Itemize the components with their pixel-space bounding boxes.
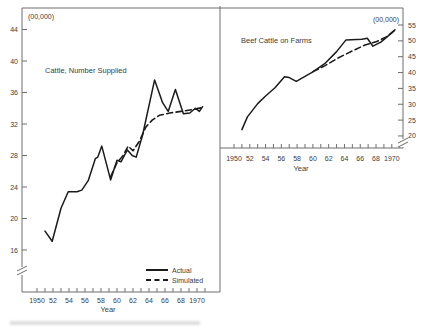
- right-x-tick-label: 64: [341, 155, 349, 162]
- chart-generated-layer: 1950525456586062646668197016202428323640…: [10, 6, 416, 304]
- left-y-tick-label: 20: [10, 215, 18, 222]
- left-x-tick-label: 54: [65, 297, 73, 304]
- left-unit-label: (00,000): [28, 13, 54, 21]
- right-x-tick-label: 62: [325, 155, 333, 162]
- left-x-tick-label: 64: [145, 297, 153, 304]
- figure-canvas: 1950525456586062646668197016202428323640…: [0, 0, 427, 328]
- left-y-tick-label: 16: [10, 247, 18, 254]
- left-x-tick-label: 58: [97, 297, 105, 304]
- figure: 1950525456586062646668197016202428323640…: [0, 0, 427, 328]
- left-y-tick-label: 36: [10, 89, 18, 96]
- right-x-tick-label: 66: [356, 155, 364, 162]
- left-y-tick-label: 28: [10, 152, 18, 159]
- right-y-tick-label: 40: [408, 69, 416, 76]
- right-x-tick-label: 56: [277, 155, 285, 162]
- left-x-tick-label: 1970: [189, 297, 205, 304]
- right-x-tick-label: 1950: [226, 155, 242, 162]
- left-x-tick-label: 62: [129, 297, 137, 304]
- right-x-tick-label: 54: [262, 155, 270, 162]
- left-y-tick-label: 32: [10, 121, 18, 128]
- left-x-tick-label: 56: [81, 297, 89, 304]
- left-y-tick-label: 40: [10, 58, 18, 65]
- right-x-tick-label: 1970: [384, 155, 400, 162]
- cropped-caption-remnant: [10, 321, 200, 325]
- left-y-tick-label: 24: [10, 184, 18, 191]
- right-y-tick-label: 30: [408, 101, 416, 108]
- right-panel-title: Beef Cattle on Farms: [241, 36, 312, 45]
- right-x-tick-label: 52: [246, 155, 254, 162]
- legend-simulated-label: Simulated: [172, 277, 203, 284]
- right-unit-label: (00,000): [373, 16, 399, 24]
- left-x-tick-label: 68: [177, 297, 185, 304]
- right-simulated-line: [313, 30, 395, 72]
- right-y-tick-label: 20: [408, 132, 416, 139]
- legend: Actual Simulated: [146, 267, 203, 284]
- left-simulated-line: [111, 108, 203, 177]
- legend-actual-label: Actual: [172, 267, 192, 274]
- left-x-tick-label: 1950: [29, 297, 45, 304]
- right-y-tick-label: 25: [408, 117, 416, 124]
- left-y-tick-label: 44: [10, 26, 18, 33]
- left-actual-line: [45, 80, 203, 241]
- right-x-tick-label: 58: [293, 155, 301, 162]
- left-x-tick-label: 52: [49, 297, 57, 304]
- right-y-tick-label: 35: [408, 85, 416, 92]
- right-y-tick-label: 45: [408, 53, 416, 60]
- left-panel-title: Cattle, Number Supplied: [45, 66, 127, 75]
- right-y-tick-label: 55: [408, 22, 416, 29]
- right-x-axis-title: Year: [293, 164, 309, 173]
- right-x-tick-label: 60: [309, 155, 317, 162]
- right-x-tick-label: 68: [372, 155, 380, 162]
- right-y-tick-label: 50: [408, 37, 416, 44]
- left-x-tick-label: 66: [161, 297, 169, 304]
- left-x-axis-title: Year: [100, 305, 116, 314]
- left-x-tick-label: 60: [113, 297, 121, 304]
